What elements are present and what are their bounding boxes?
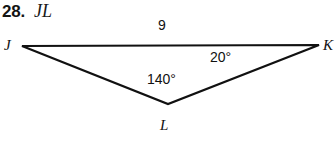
side-length-label-jk: 9 xyxy=(158,18,166,32)
vertex-label-k: K xyxy=(323,38,333,53)
angle-measure-label-k: 20° xyxy=(210,50,231,64)
angle-measure-label-l: 140° xyxy=(147,72,176,86)
vertex-label-j: J xyxy=(4,38,11,53)
vertex-label-l: L xyxy=(160,118,168,133)
figure-page: 28. JL J K L 9 140° 20° xyxy=(0,0,335,141)
